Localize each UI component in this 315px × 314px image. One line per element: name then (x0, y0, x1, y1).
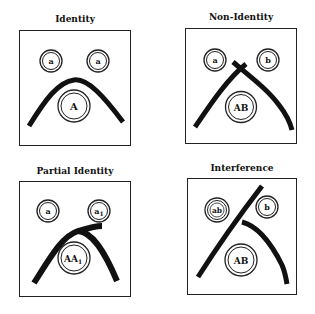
antibody-well-right: b (256, 196, 278, 218)
well-label: b (264, 202, 270, 212)
antibody-well-left: ab (205, 198, 229, 222)
well-label: ab (212, 206, 222, 215)
panel-interference: Interference ab b AB (0, 0, 315, 314)
well-label: AB (233, 256, 249, 266)
interference-diagram: ab b AB (0, 0, 315, 314)
antigen-well-center: AB (225, 244, 257, 276)
